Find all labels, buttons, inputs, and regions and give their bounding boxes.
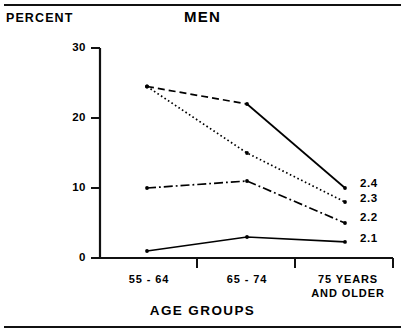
series-label-2-3: 2.3 <box>360 192 378 204</box>
data-point-2-1-0 <box>145 249 149 253</box>
chart-title: MEN <box>0 9 405 26</box>
xaxis-title: AGE GROUPS <box>0 303 405 318</box>
xtick-label-65-74: 65 - 74 <box>198 273 296 287</box>
xtick-marks <box>197 258 393 268</box>
data-point-2-3-0 <box>145 85 149 89</box>
xtick-label-55-64: 55 - 64 <box>100 273 198 287</box>
series-lines <box>145 85 347 253</box>
series-label-2-2: 2.2 <box>360 211 378 223</box>
top-divider-rule <box>4 4 401 6</box>
series-line-2-4-seg2 <box>247 104 345 188</box>
data-point-2-2-0 <box>145 186 149 190</box>
ytick-label-10: 10 <box>44 181 86 193</box>
figure-container: PERCENT MEN AGE GROUPS 30 20 10 0 55 - 6… <box>0 0 405 332</box>
data-point-2-1-1 <box>245 235 249 239</box>
ytick-marks <box>91 48 100 258</box>
ytick-label-30: 30 <box>44 41 86 53</box>
series-line-2-1 <box>147 237 345 251</box>
axes-group <box>91 48 393 268</box>
series-label-2-1: 2.1 <box>360 232 378 244</box>
xtick-label-75-and-older: 75 YEARS AND OLDER <box>296 273 400 301</box>
series-label-2-4: 2.4 <box>360 177 378 189</box>
data-point-2-4-1 <box>245 102 249 106</box>
series-line-2-2 <box>147 181 345 223</box>
data-point-2-4-2 <box>343 186 347 190</box>
ytick-label-20: 20 <box>44 111 86 123</box>
data-point-2-2-2 <box>343 221 347 225</box>
bottom-divider-rule <box>4 326 401 328</box>
data-point-2-1-2 <box>343 240 347 244</box>
data-point-2-3-1 <box>245 151 249 155</box>
ytick-label-0: 0 <box>44 251 86 263</box>
data-point-2-3-2 <box>343 200 347 204</box>
data-point-2-2-1 <box>245 179 249 183</box>
series-line-2-4-seg1 <box>147 87 247 105</box>
